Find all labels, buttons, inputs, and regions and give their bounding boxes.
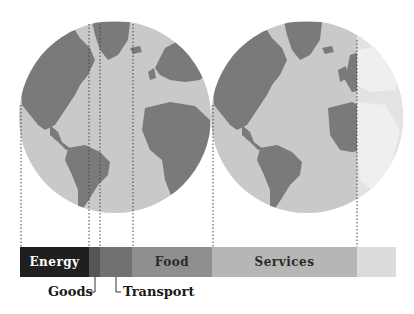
left-globe-icon [19, 21, 212, 213]
segment-other [357, 247, 396, 277]
segment-label-services: Services [255, 255, 315, 269]
segment-food: Food [132, 247, 212, 277]
callout-goods: Goods [48, 284, 93, 299]
right-globe-icon [211, 21, 403, 213]
segment-services: Services [212, 247, 357, 277]
segment-transport [100, 247, 132, 277]
callout-transport: Transport [123, 284, 194, 299]
segment-energy: Energy [20, 247, 89, 277]
segment-goods [89, 247, 100, 277]
segment-label-food: Food [155, 255, 189, 269]
segment-label-energy: Energy [29, 255, 79, 269]
budget-globe-diagram: Energy Food Services Goods Transport [0, 0, 414, 314]
